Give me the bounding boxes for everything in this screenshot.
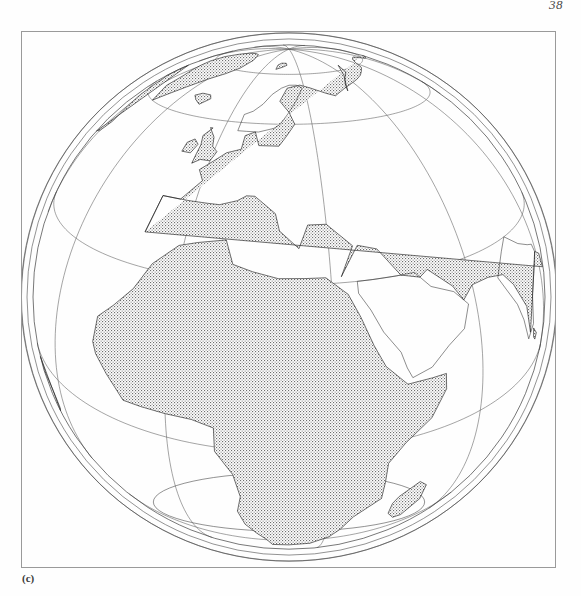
figure-frame bbox=[21, 31, 556, 568]
page-canvas: 38 (c) bbox=[0, 0, 581, 596]
figure-caption: (c) bbox=[22, 572, 34, 584]
page-number: 38 bbox=[549, 0, 563, 13]
